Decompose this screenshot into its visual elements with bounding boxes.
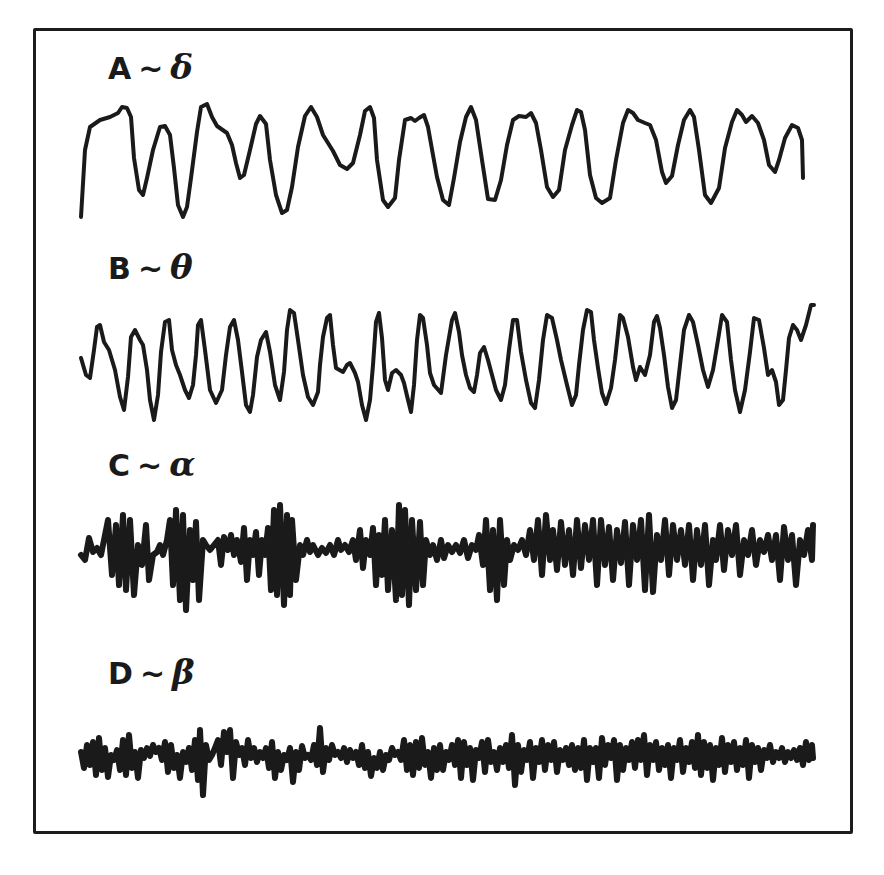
- waveform-canvas: [0, 0, 884, 875]
- waveform-delta: [81, 104, 803, 217]
- waveform-beta: [81, 728, 813, 795]
- waveform-alpha: [81, 505, 813, 610]
- waveform-theta: [81, 305, 814, 420]
